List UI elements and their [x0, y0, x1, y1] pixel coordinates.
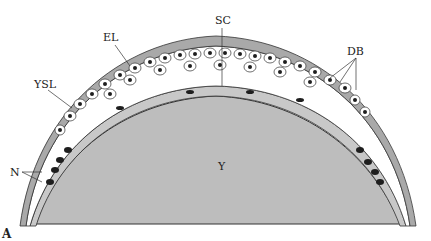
label-db: DB — [347, 45, 364, 58]
label-n: N — [10, 166, 20, 179]
label-ysl: YSL — [33, 78, 57, 91]
label-el: EL — [103, 31, 119, 44]
label-sc: SC — [215, 14, 231, 27]
panel-label: A — [1, 227, 12, 241]
embryo-diagram: SC EL YSL DB N Y A — [0, 0, 431, 241]
label-y: Y — [217, 160, 226, 173]
